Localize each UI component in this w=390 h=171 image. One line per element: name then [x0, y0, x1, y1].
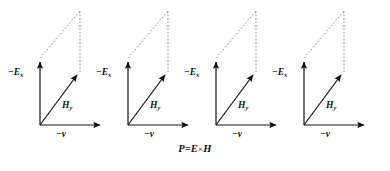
caption-rhs-first: E [191, 143, 198, 154]
label-minus-Ex: −Ex [184, 67, 200, 78]
vector-Hy [216, 75, 253, 125]
label-Hy: Hy [237, 100, 248, 111]
vector-panel-4: −Ex Hy −v [262, 0, 377, 145]
vector-diagram-figure: −Ex Hy −v −Ex Hy [0, 0, 390, 171]
label-minus-v: −v [56, 129, 67, 139]
vector-Hy [304, 75, 341, 125]
label-Hy: Hy [325, 100, 336, 111]
label-minus-v: −v [320, 129, 331, 139]
dashed-construction-lines [128, 11, 168, 72]
vector-Hy [40, 75, 77, 125]
panel-row: −Ex Hy −v −Ex Hy [0, 0, 390, 145]
label-minus-v: −v [144, 129, 155, 139]
label-Hy: Hy [149, 100, 160, 111]
figure-caption: P=E×H [0, 143, 390, 154]
label-minus-Ex: −Ex [8, 67, 24, 78]
label-minus-Ex: −Ex [272, 67, 288, 78]
dashed-construction-lines [216, 11, 256, 72]
dashed-construction-lines [40, 11, 80, 72]
label-minus-Ex: −Ex [96, 67, 112, 78]
vector-Hy [128, 75, 165, 125]
caption-lhs: P [178, 143, 185, 154]
label-Hy: Hy [61, 100, 72, 111]
label-minus-v: −v [232, 129, 243, 139]
caption-rhs-second: H [203, 143, 211, 154]
dashed-construction-lines [304, 11, 344, 72]
